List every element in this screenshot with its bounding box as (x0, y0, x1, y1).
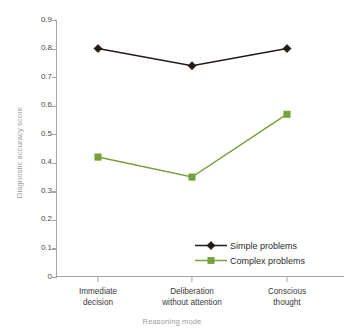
y-tick-mark (52, 277, 57, 278)
data-point-marker (188, 62, 196, 70)
y-tick-label: 0.1 (41, 243, 52, 252)
data-point-marker (207, 242, 215, 250)
data-point-marker (94, 45, 102, 53)
series-line (98, 114, 287, 177)
y-tick-label: 0.5 (41, 129, 52, 138)
y-axis-title: Diagnostic accuracy score (15, 88, 24, 218)
data-point-marker (284, 111, 290, 117)
x-axis-title: Reasoning mode (0, 317, 344, 326)
x-tick-label-line: Conscious (232, 286, 342, 297)
y-tick-label: 0.9 (41, 15, 52, 24)
y-tick-label: 0.2 (41, 214, 52, 223)
data-point-marker (189, 174, 195, 180)
data-point-marker (208, 257, 214, 263)
x-tick-label: Consciousthought (232, 286, 342, 308)
legend-label: Simple problems (230, 241, 297, 251)
y-tick-label: 0.8 (41, 43, 52, 52)
y-tick-label: 0.7 (41, 72, 52, 81)
x-tick-label: Deliberationwithout attention (137, 286, 247, 308)
data-point-marker (95, 154, 101, 160)
y-tick-label: 0.4 (41, 157, 52, 166)
legend-marker-icon (194, 239, 228, 252)
y-tick-label: 0 (48, 272, 52, 281)
legend-item[interactable]: Simple problems (194, 238, 305, 253)
legend-label: Complex problems (230, 256, 305, 266)
x-tick-label-line: thought (232, 297, 342, 308)
chart-legend: Simple problemsComplex problems (194, 238, 305, 268)
plot-area: 00.10.20.30.40.50.60.70.80.9 Immediatede… (56, 20, 344, 277)
y-tick-label: 0.3 (41, 186, 52, 195)
legend-item[interactable]: Complex problems (194, 253, 305, 268)
line-chart-figure: Diagnostic accuracy score Reasoning mode… (0, 0, 344, 332)
legend-marker-icon (194, 254, 228, 267)
x-tick-label-line: without attention (137, 297, 247, 308)
x-tick-label-line: Deliberation (137, 286, 247, 297)
y-tick-label: 0.6 (41, 100, 52, 109)
data-point-marker (283, 45, 291, 53)
